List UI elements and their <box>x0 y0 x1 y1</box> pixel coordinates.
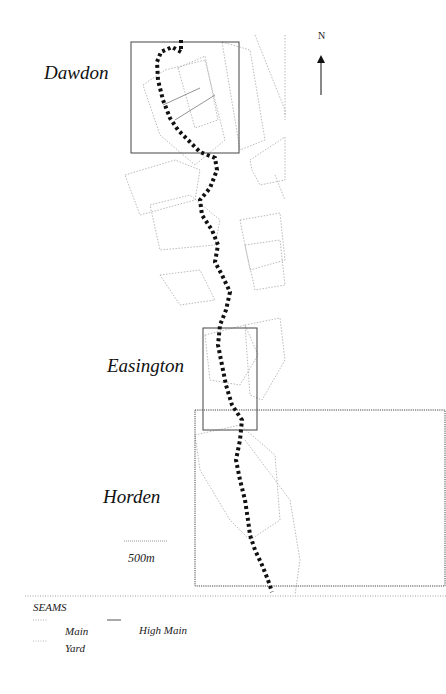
high-main-seam <box>163 88 215 120</box>
legend-item-main: Main <box>65 625 88 637</box>
north-label: N <box>318 30 325 41</box>
scale-bar-label: 500m <box>128 551 155 566</box>
coastline-map <box>0 0 446 694</box>
place-label-dawdon: Dawdon <box>44 62 108 84</box>
legend-title: SEAMS <box>33 601 67 613</box>
place-label-easington: Easington <box>107 355 184 377</box>
seam-outlines <box>125 35 300 595</box>
coastal-route <box>157 40 272 592</box>
area-boxes <box>131 42 445 586</box>
place-label-horden: Horden <box>103 486 160 508</box>
north-arrow-icon <box>317 55 325 95</box>
legend-item-yard: Yard <box>65 642 85 654</box>
legend-item-high-main: High Main <box>139 624 187 636</box>
horden-box <box>195 410 445 586</box>
